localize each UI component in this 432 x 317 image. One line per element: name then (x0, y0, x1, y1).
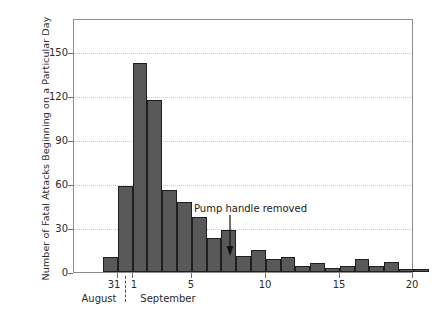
x-tick-mark-5 (191, 273, 192, 278)
bar (414, 269, 429, 272)
x-tick-mark-1 (132, 273, 133, 278)
bar (295, 266, 310, 272)
bar (103, 257, 118, 272)
y-tick-label-90: 90 (28, 135, 68, 146)
bar (310, 263, 325, 272)
y-tick-label-120: 120 (28, 91, 68, 102)
bar (118, 186, 133, 272)
y-tick-label-150: 150 (28, 47, 68, 58)
x-tick-label-1: 1 (131, 279, 137, 290)
plot-area (73, 19, 413, 273)
bar (207, 238, 222, 272)
bar (251, 250, 266, 272)
bar (177, 202, 192, 272)
annotation-arrow-icon (225, 215, 235, 257)
bar (266, 259, 281, 272)
bar (236, 256, 251, 272)
x-tick-label-10: 10 (259, 279, 272, 290)
bar-series (74, 20, 412, 272)
y-tick-label-60: 60 (28, 179, 68, 190)
bar (399, 269, 414, 272)
bar (147, 100, 162, 272)
y-tick-label-30: 30 (28, 223, 68, 234)
y-tick-label-0: 0 (28, 267, 68, 278)
bar (355, 259, 370, 272)
bar (325, 268, 340, 272)
annotation-label: Pump handle removed (194, 203, 307, 214)
x-tick-label-20: 20 (406, 279, 419, 290)
bar (369, 266, 384, 272)
y-tick-mark-0 (68, 273, 73, 274)
bar (281, 257, 296, 272)
month-divider (125, 276, 126, 302)
x-tick-mark-15 (339, 273, 340, 278)
chart-figure: Number of Fatal Attacks Beginning on a P… (0, 0, 432, 317)
bar (340, 266, 355, 272)
x-tick-label-31: 31 (108, 279, 121, 290)
x-tick-mark-20 (412, 273, 413, 278)
month-label-september: September (140, 293, 195, 304)
bar (192, 217, 207, 272)
x-tick-mark-10 (265, 273, 266, 278)
x-tick-mark-31 (117, 273, 118, 278)
month-label-august: August (82, 293, 117, 304)
bar (384, 262, 399, 272)
x-tick-label-5: 5 (188, 279, 194, 290)
x-tick-label-15: 15 (333, 279, 346, 290)
bar (133, 63, 148, 272)
bar (162, 190, 177, 272)
